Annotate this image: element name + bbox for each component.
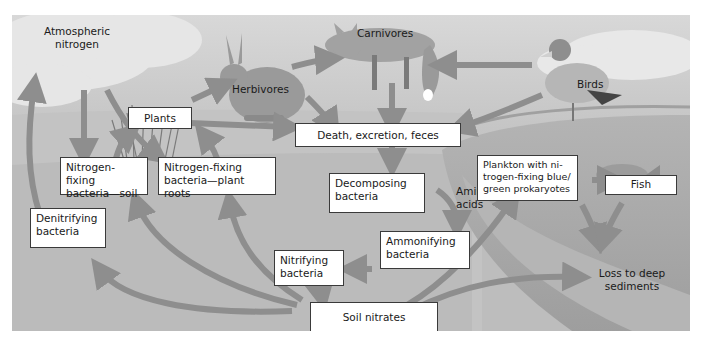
soil-nitrates-box: Soil nitrates bbox=[310, 302, 438, 331]
loss-to-deep-sediments-label: Loss to deep sediments bbox=[577, 267, 687, 293]
plants-box: Plants bbox=[128, 107, 192, 129]
death-excretion-feces-box: Death, excretion, feces bbox=[295, 123, 461, 147]
fish-box: Fish bbox=[605, 175, 677, 195]
nitrogen-fixing-roots-box: Nitrogen-fixing bacteria—plant roots bbox=[158, 157, 276, 195]
nitrogen-cycle-diagram: Atmospheric nitrogen Plants Herbivores C… bbox=[12, 15, 690, 331]
nitrifying-bacteria-box: Nitrifying bacteria bbox=[274, 250, 344, 286]
ammonifying-bacteria-box: Ammonifying bacteria bbox=[380, 231, 470, 269]
denitrifying-bacteria-box: Denitrifying bacteria bbox=[30, 208, 106, 248]
plankton-box: Plankton with ni- trogen-fixing blue/ gr… bbox=[477, 155, 578, 201]
decomposing-bacteria-box: Decomposing bacteria bbox=[329, 173, 425, 213]
herbivores-label: Herbivores bbox=[232, 83, 289, 96]
birds-label: Birds bbox=[577, 78, 603, 91]
nitrogen-fixing-soil-box: Nitrogen-fixing bacteria—soil bbox=[60, 157, 148, 195]
carnivores-label: Carnivores bbox=[357, 27, 413, 40]
atmospheric-nitrogen-label: Atmospheric nitrogen bbox=[22, 25, 132, 51]
